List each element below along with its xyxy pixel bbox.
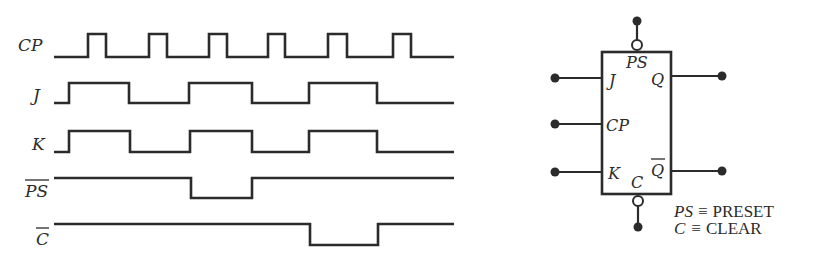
pin-label-q: Q	[651, 70, 664, 89]
q-output-terminal	[718, 72, 727, 81]
waveform-c-bar	[54, 224, 454, 245]
preset-inversion-bubble	[632, 40, 642, 50]
legend-meaning: CLEAR	[706, 219, 762, 238]
cp-input-terminal	[551, 120, 560, 129]
signal-label-j: J	[30, 85, 41, 105]
preset-terminal	[633, 17, 642, 26]
timing-diagram: CP J K PS C	[18, 34, 454, 249]
pin-label-clear: C	[631, 173, 643, 192]
clear-terminal	[634, 223, 643, 232]
j-input-terminal	[551, 74, 560, 83]
signal-label-text: PS	[24, 181, 48, 201]
equiv-sign: ≡	[691, 219, 701, 238]
signal-label-text: C	[36, 229, 49, 249]
pin-label-q-bar: Q	[651, 159, 665, 180]
pin-label-text: Q	[651, 161, 664, 180]
signal-label-k: K	[31, 134, 46, 154]
legend: PS≡PRESET C≡CLEAR	[673, 202, 775, 238]
k-input-terminal	[551, 168, 560, 177]
legend-symbol: C	[674, 219, 686, 238]
signal-label-cp: CP	[18, 35, 43, 55]
waveform-j	[54, 83, 454, 103]
waveform-cp	[54, 34, 454, 57]
waveform-k	[54, 131, 454, 152]
flip-flop-block: PS J Q CP K Q C	[551, 17, 727, 232]
pin-label-preset: PS	[625, 53, 648, 72]
signal-label-ps-bar: PS	[24, 180, 49, 201]
clear-inversion-bubble	[633, 196, 643, 206]
pin-label-cp: CP	[606, 116, 629, 135]
jk-flip-flop-figure: CP J K PS C	[0, 0, 832, 266]
pin-label-k: K	[607, 164, 621, 183]
legend-clear: C≡CLEAR	[674, 219, 762, 238]
q-bar-output-terminal	[718, 167, 727, 176]
signal-label-c-bar: C	[36, 228, 49, 249]
waveform-ps-bar	[54, 178, 454, 198]
